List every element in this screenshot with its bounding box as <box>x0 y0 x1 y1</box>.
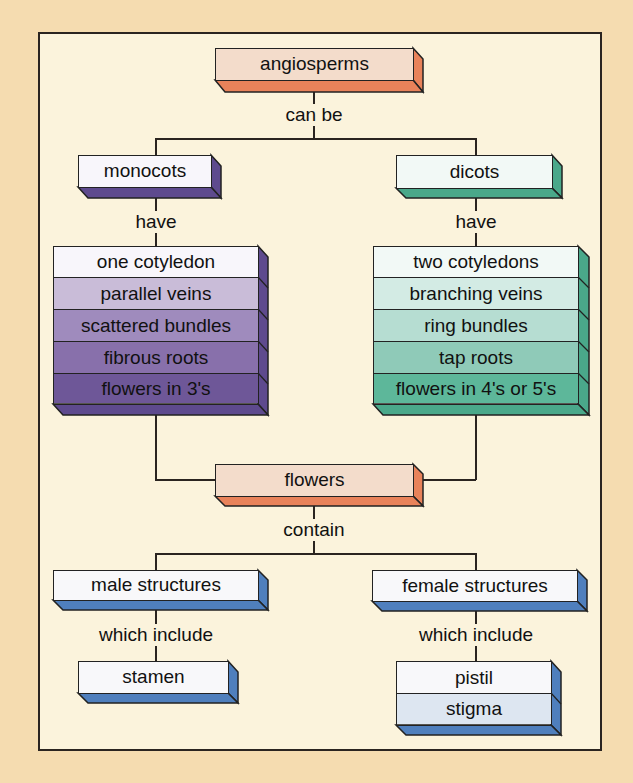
trait-row: ring bundles <box>374 310 578 342</box>
trait-row: flowers in 3's <box>54 374 258 403</box>
connector-root-horizontal <box>155 138 476 140</box>
trait-row: parallel veins <box>54 278 258 310</box>
connector-to-male <box>155 553 157 570</box>
node-label: monocots <box>79 156 211 186</box>
link-label-can-be: can be <box>283 104 344 126</box>
link-label-contain: contain <box>281 519 346 541</box>
link-label-female-which-include: which include <box>417 624 535 646</box>
node-label: dicots <box>397 156 552 187</box>
node-label: female structures <box>373 571 577 600</box>
trait-row: two cotyledons <box>374 247 578 278</box>
connector-monocot-to-flowers <box>155 479 215 481</box>
connector-dicot-to-flowers <box>420 479 476 481</box>
link-label-monocots-have: have <box>133 211 178 233</box>
node-label: stamen <box>79 662 228 692</box>
node-label: flowers <box>216 465 413 495</box>
node-label: male structures <box>54 571 258 599</box>
trait-row: fibrous roots <box>54 342 258 374</box>
trait-row: flowers in 4's or 5's <box>374 374 578 403</box>
link-label-male-which-include: which include <box>97 624 215 646</box>
trait-row: branching veins <box>374 278 578 310</box>
trait-row: one cotyledon <box>54 247 258 278</box>
connector-flowers-horizontal <box>155 553 476 555</box>
connector-dicot-stack-down <box>475 415 477 480</box>
trait-row: tap roots <box>374 342 578 374</box>
trait-row: scattered bundles <box>54 310 258 342</box>
part-row: stigma <box>397 694 551 724</box>
node-label: angiosperms <box>216 49 413 79</box>
connector-monocot-stack-down <box>155 415 157 480</box>
connector-to-dicots <box>475 138 477 155</box>
part-row: pistil <box>397 662 551 694</box>
link-label-dicots-have: have <box>453 211 498 233</box>
connector-to-female <box>475 553 477 570</box>
connector-to-monocots <box>155 138 157 155</box>
